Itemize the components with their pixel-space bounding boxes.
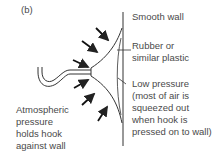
low-pressure-label-2: (most of air is <box>132 90 189 102</box>
rubber-label-2: similar plastic <box>132 52 189 64</box>
atmospheric-label-3: holds hook <box>16 128 62 140</box>
atmospheric-label-2: pressure <box>16 116 53 128</box>
smooth-wall-label: Smooth wall <box>132 11 184 23</box>
atmospheric-label-4: against wall <box>16 140 66 152</box>
low-pressure-leader <box>118 78 126 84</box>
atmospheric-label-1: Atmospheric <box>16 104 69 116</box>
low-pressure-label-3: squeezed out <box>132 102 189 114</box>
rubber-label-1: Rubber or <box>132 40 174 52</box>
low-pressure-label-4: when hook is <box>132 114 187 126</box>
low-pressure-label-5: pressed on to wall) <box>132 126 212 138</box>
suction-cup-inner <box>117 38 121 115</box>
panel-label: (b) <box>21 4 33 16</box>
low-pressure-label-1: Low pressure <box>132 78 189 90</box>
